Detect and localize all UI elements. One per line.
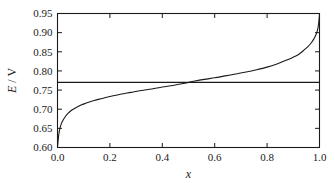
y-tick-label-0.80: 0.80 xyxy=(33,65,53,77)
x-tick-label-0.0: 0.0 xyxy=(51,151,65,163)
y-tick-label-0.65: 0.65 xyxy=(33,122,53,134)
y-axis-title-unit: V xyxy=(5,68,19,77)
x-axis-title: x xyxy=(185,167,192,181)
x-tick-label-0.6: 0.6 xyxy=(208,151,222,163)
x-tick-label-0.8: 0.8 xyxy=(260,151,274,163)
plot-canvas: 0.600.650.700.750.800.850.900.95 0.00.20… xyxy=(0,0,335,183)
y-tick-label-0.75: 0.75 xyxy=(33,84,53,96)
x-tick-label-0.2: 0.2 xyxy=(103,151,117,163)
y-axis-title-group: E / V xyxy=(5,68,19,94)
y-tick-label-0.95: 0.95 xyxy=(33,7,53,19)
x-tick-label-0.4: 0.4 xyxy=(155,151,169,163)
y-tick-label-0.85: 0.85 xyxy=(33,46,53,58)
y-tick-label-0.90: 0.90 xyxy=(33,26,53,38)
chart-figure: 0.600.650.700.750.800.850.900.95 0.00.20… xyxy=(0,0,335,183)
x-tick-label-1.0: 1.0 xyxy=(313,151,327,163)
y-axis-title-separator: / xyxy=(5,77,19,86)
y-tick-label-0.70: 0.70 xyxy=(33,103,53,115)
y-axis-title: E / V xyxy=(5,68,19,94)
